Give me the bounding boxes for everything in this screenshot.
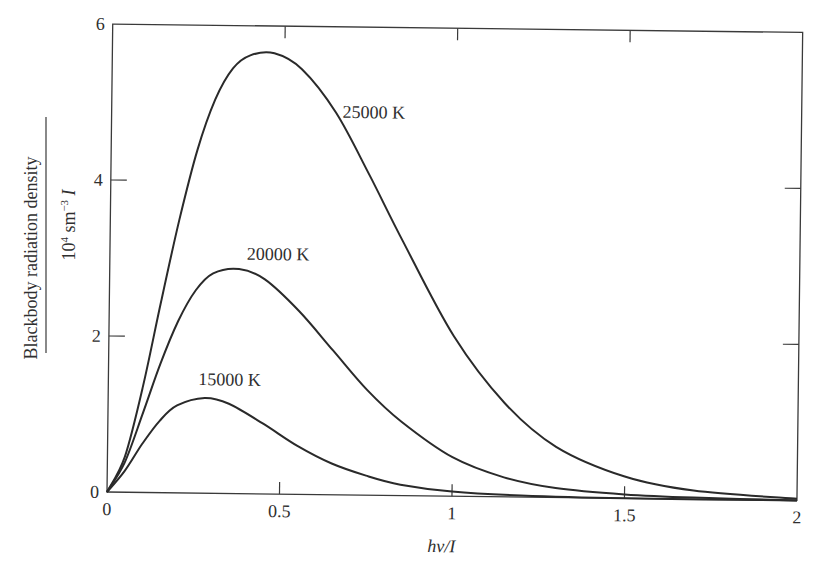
x-axis-label: hv/I [427,536,456,556]
y-tick-label: 0 [90,482,99,502]
curve-label-15000: 15000 K [198,369,261,390]
y-tick-label: 2 [92,326,101,346]
axis-ticks [107,24,803,500]
plot-frame [107,24,803,500]
curve-label-25000: 25000 K [343,102,406,123]
x-tick-label: 1.5 [613,505,636,525]
x-tick-label: 0 [102,499,111,519]
y-axis-label: Blackbody radiation density 104 sm−3 I [21,117,79,359]
x-tick-label: 1 [447,503,456,523]
y-axis-label-denominator: 104 sm−3 I [58,188,79,260]
x-tick-label: 2 [792,507,801,527]
curves [107,50,802,500]
axis-tick-labels: 00.511.520246 [90,14,808,528]
blackbody-chart: 00.511.520246 25000 K 20000 K 15000 K hv… [0,0,815,567]
curve-label-20000: 20000 K [247,244,310,265]
y-axis-label-numerator: Blackbody radiation density [21,157,41,360]
y-tick-label: 4 [94,170,103,190]
y-tick-label: 6 [96,14,105,34]
x-tick-label: 0.5 [268,501,291,521]
